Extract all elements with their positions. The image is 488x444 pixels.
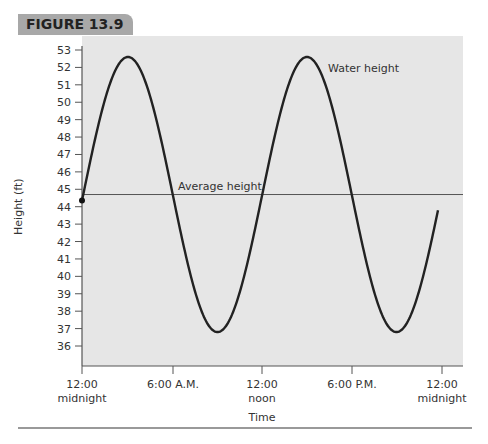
y-tick-label: 38 [57,305,71,318]
water-height-label: Water height [328,62,400,75]
y-tick-label: 46 [57,166,71,179]
x-tick-label-sub: midnight [57,392,107,405]
y-tick-label: 52 [57,61,71,74]
x-tick-label: 12:00 [246,378,278,391]
x-tick-label-sub: midnight [417,392,467,405]
y-tick-label: 53 [57,44,71,57]
x-tick-label: 12:00 [66,378,98,391]
start-point [79,198,85,204]
y-tick-label: 36 [57,340,71,353]
y-axis-label: Height (ft) [12,178,25,234]
y-tick-label: 50 [57,96,71,109]
y-tick-label: 45 [57,183,71,196]
y-tick-label: 48 [57,131,71,144]
x-tick-label: 6:00 P.M. [327,378,377,391]
figure: FIGURE 13.9 3637383940414243444546474849… [0,0,488,444]
x-tick-label: 12:00 [426,378,458,391]
y-tick-label: 41 [57,253,71,266]
y-tick-label: 40 [57,270,71,283]
tide-chart: 36373839404142434445464748495051525312:0… [0,0,488,444]
y-tick-label: 42 [57,236,71,249]
y-tick-label: 39 [57,288,71,301]
plot-area [82,36,463,366]
y-tick-label: 44 [57,201,71,214]
y-tick-label: 47 [57,148,71,161]
x-axis-label: Time [248,411,276,424]
y-tick-label: 37 [57,323,71,336]
y-tick-label: 49 [57,114,71,127]
y-tick-label: 43 [57,218,71,231]
y-tick-label: 51 [57,79,71,92]
x-tick-label: 6:00 A.M. [147,378,199,391]
average-height-label: Average height [178,180,262,193]
x-tick-label-sub: noon [248,392,275,405]
